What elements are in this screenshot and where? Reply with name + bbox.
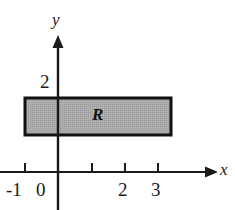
region-label-R: R <box>92 106 103 123</box>
x-axis-label: x <box>220 161 228 178</box>
x-tick-label-3: 3 <box>151 180 161 199</box>
x-axis-arrowhead <box>205 167 218 178</box>
origin-label: 0 <box>36 180 46 199</box>
y-tick-label-2: 2 <box>40 72 50 91</box>
x-axis <box>0 163 218 178</box>
x-tick-label-minus1: -1 <box>6 180 22 199</box>
math-figure: y x 2 -1 0 2 3 R <box>0 0 235 210</box>
y-axis-label: y <box>52 11 60 28</box>
y-axis-arrowhead <box>53 35 64 48</box>
x-tick-label-2: 2 <box>118 180 128 199</box>
